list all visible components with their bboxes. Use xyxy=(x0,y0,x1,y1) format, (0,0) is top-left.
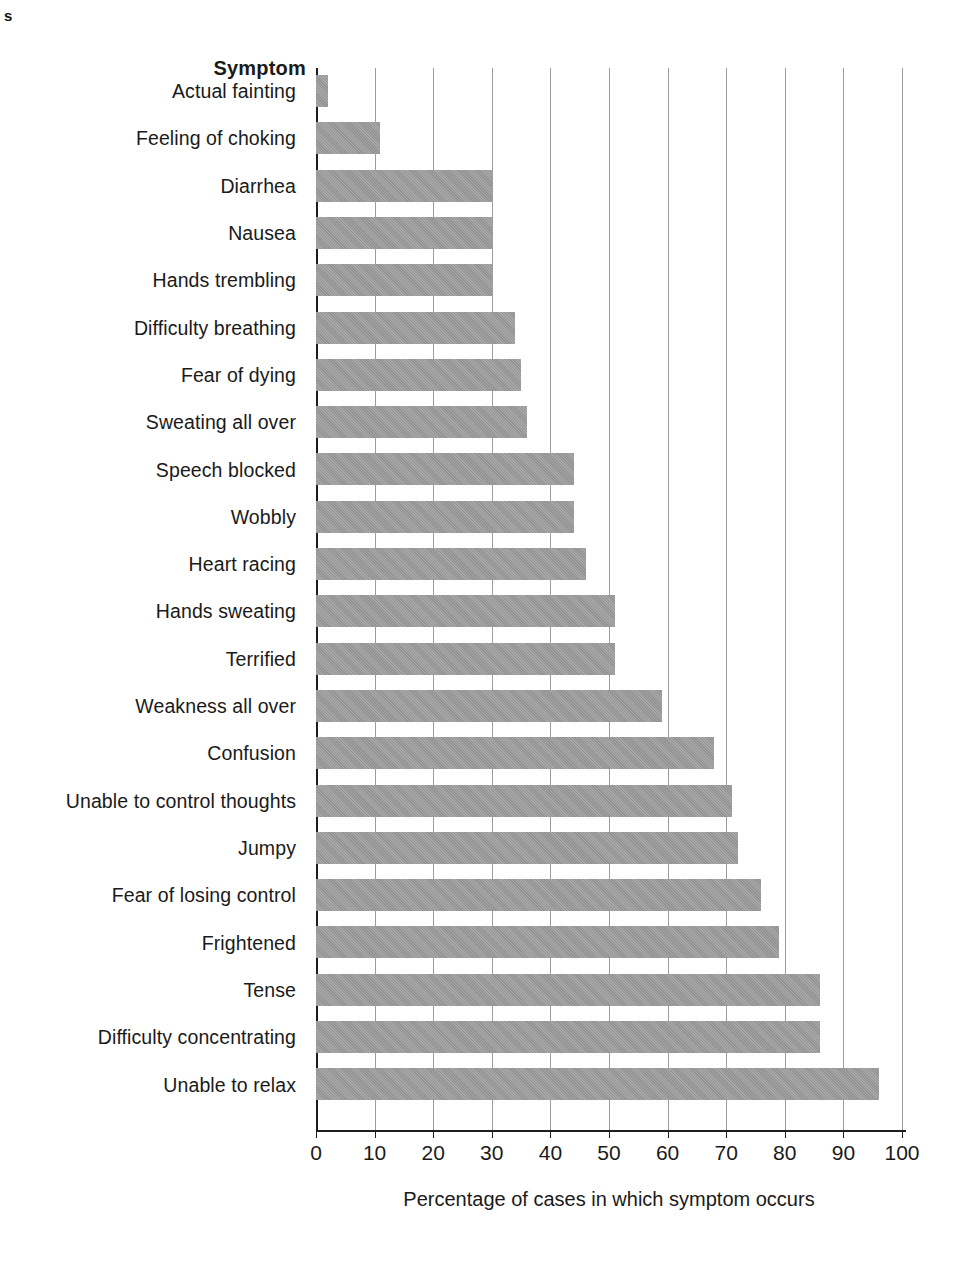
bar-row xyxy=(316,399,902,446)
bar xyxy=(316,832,738,864)
bar-row xyxy=(316,305,902,352)
category-label: Difficulty breathing xyxy=(134,305,306,352)
category-label: Nausea xyxy=(228,210,306,257)
bar-row xyxy=(316,352,902,399)
x-tick-label: 70 xyxy=(715,1141,738,1165)
bar-row xyxy=(316,683,902,730)
x-axis-line xyxy=(316,1130,906,1132)
bar xyxy=(316,312,515,344)
bar xyxy=(316,785,732,817)
x-tick-label: 0 xyxy=(310,1141,322,1165)
bar-row xyxy=(316,588,902,635)
bar-row xyxy=(316,163,902,210)
x-tick-label: 40 xyxy=(539,1141,562,1165)
tick-mark-60 xyxy=(668,1130,669,1138)
x-tick-label: 100 xyxy=(884,1141,919,1165)
category-label: Weakness all over xyxy=(135,683,306,730)
bar-row xyxy=(316,115,902,162)
bar xyxy=(316,1021,820,1053)
bar xyxy=(316,1068,879,1100)
tick-mark-0 xyxy=(316,1130,317,1138)
category-label: Frightened xyxy=(202,919,306,966)
bar xyxy=(316,170,492,202)
bar xyxy=(316,926,779,958)
category-label-column: Actual faintingFeeling of chokingDiarrhe… xyxy=(0,68,306,1130)
category-label: Tense xyxy=(243,967,306,1014)
category-label: Terrified xyxy=(226,636,306,683)
bar-row xyxy=(316,730,902,777)
x-tick-label: 80 xyxy=(773,1141,796,1165)
bar xyxy=(316,264,492,296)
x-tick-label: 30 xyxy=(480,1141,503,1165)
category-label: Fear of dying xyxy=(181,352,306,399)
category-label: Feeling of choking xyxy=(136,115,306,162)
bar-row xyxy=(316,919,902,966)
category-label: Difficulty concentrating xyxy=(98,1014,306,1061)
category-label: Unable to relax xyxy=(163,1061,306,1108)
bar-row xyxy=(316,872,902,919)
bar-row xyxy=(316,967,902,1014)
bar xyxy=(316,453,574,485)
bar xyxy=(316,217,492,249)
tick-mark-70 xyxy=(726,1130,727,1138)
category-label: Fear of losing control xyxy=(112,872,306,919)
bar-row xyxy=(316,210,902,257)
bar-row xyxy=(316,778,902,825)
tick-mark-30 xyxy=(492,1130,493,1138)
horizontal-bar-chart: Symptom Actual faintingFeeling of chokin… xyxy=(0,0,965,1265)
bar-row xyxy=(316,825,902,872)
bar-row xyxy=(316,1061,902,1108)
bar xyxy=(316,690,662,722)
category-label: Speech blocked xyxy=(156,446,306,493)
gridline-100 xyxy=(902,68,903,1130)
tick-mark-20 xyxy=(433,1130,434,1138)
bar xyxy=(316,501,574,533)
bar-row xyxy=(316,494,902,541)
category-label: Hands trembling xyxy=(153,257,306,304)
category-label: Wobbly xyxy=(231,494,306,541)
bar xyxy=(316,879,761,911)
category-label: Sweating all over xyxy=(146,399,306,446)
x-tick-label: 90 xyxy=(832,1141,855,1165)
tick-mark-90 xyxy=(843,1130,844,1138)
x-tick-label: 50 xyxy=(597,1141,620,1165)
tick-mark-40 xyxy=(550,1130,551,1138)
bar xyxy=(316,595,615,627)
x-tick-label: 20 xyxy=(422,1141,445,1165)
bar-row xyxy=(316,446,902,493)
category-label: Diarrhea xyxy=(220,163,306,210)
bar-row xyxy=(316,1014,902,1061)
tick-mark-80 xyxy=(785,1130,786,1138)
x-tick-label: 60 xyxy=(656,1141,679,1165)
category-label: Confusion xyxy=(207,730,306,777)
category-label: Hands sweating xyxy=(156,588,306,635)
bar-row xyxy=(316,636,902,683)
tick-mark-10 xyxy=(375,1130,376,1138)
bar xyxy=(316,643,615,675)
bar-row xyxy=(316,541,902,588)
category-label: Actual fainting xyxy=(172,68,306,115)
bar xyxy=(316,974,820,1006)
bar xyxy=(316,406,527,438)
bar xyxy=(316,737,714,769)
x-axis-label: Percentage of cases in which symptom occ… xyxy=(316,1188,902,1211)
tick-mark-100 xyxy=(902,1130,903,1138)
bar xyxy=(316,75,328,107)
tick-mark-50 xyxy=(609,1130,610,1138)
bar xyxy=(316,122,380,154)
bar-row xyxy=(316,257,902,304)
category-label: Jumpy xyxy=(238,825,306,872)
x-tick-label: 10 xyxy=(363,1141,386,1165)
bar xyxy=(316,548,586,580)
bar xyxy=(316,359,521,391)
plot-area xyxy=(316,68,902,1130)
bar-row xyxy=(316,68,902,115)
category-label: Heart racing xyxy=(189,541,306,588)
category-label: Unable to control thoughts xyxy=(66,778,306,825)
